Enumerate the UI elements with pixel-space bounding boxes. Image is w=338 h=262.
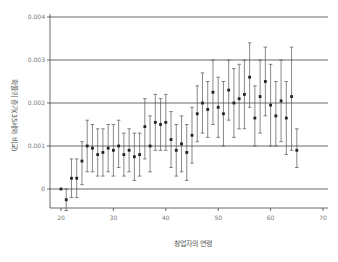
data-point — [91, 147, 94, 150]
data-point — [128, 149, 131, 152]
data-point — [290, 95, 293, 98]
tick-labels: 00.0010.0020.0030.004203040506070 — [28, 13, 327, 221]
data-point — [102, 151, 105, 154]
data-point — [96, 153, 99, 156]
x-tick-label: 70 — [319, 214, 327, 221]
data-point — [280, 99, 283, 102]
data-point — [233, 102, 236, 105]
data-point — [149, 145, 152, 148]
axes — [47, 14, 328, 211]
data-point — [75, 177, 78, 180]
data-point — [122, 153, 125, 156]
data-point — [138, 153, 141, 156]
data-point — [107, 147, 110, 150]
data-point — [154, 121, 157, 124]
y-tick-label: 0.003 — [28, 56, 45, 63]
data-point — [212, 91, 215, 94]
x-axis-title: 창업자의 연령 — [174, 239, 212, 248]
data-point — [201, 102, 204, 105]
data-point — [222, 112, 225, 115]
data-point — [191, 134, 194, 137]
data-point — [285, 117, 288, 120]
data-point — [243, 93, 246, 96]
data-point — [274, 115, 277, 118]
data-point — [175, 149, 178, 152]
data-point — [185, 151, 188, 154]
data-point — [143, 125, 146, 128]
y-tick-label: 0.004 — [28, 13, 45, 20]
data-point — [217, 106, 220, 109]
data-point — [170, 138, 173, 141]
chart: 00.0010.0020.0030.004203040506070 창업자의 연… — [0, 0, 338, 262]
x-tick-label: 50 — [214, 214, 222, 221]
data-point — [295, 149, 298, 152]
data-point — [117, 145, 120, 148]
y-tick-label: 0.002 — [28, 99, 45, 106]
x-tick-label: 30 — [110, 214, 118, 221]
data-point — [180, 142, 183, 145]
data-points — [60, 76, 299, 201]
data-point — [248, 76, 251, 79]
data-point — [264, 80, 267, 83]
data-point — [112, 149, 115, 152]
data-point — [227, 89, 230, 92]
data-point — [206, 108, 209, 111]
y-tick-label: 0.001 — [28, 142, 45, 149]
data-point — [164, 121, 167, 124]
data-point — [159, 123, 162, 126]
y-tick-label: 0 — [41, 185, 45, 192]
data-point — [253, 117, 256, 120]
x-tick-label: 20 — [57, 214, 65, 221]
data-point — [133, 155, 136, 158]
x-tick-label: 40 — [162, 214, 170, 221]
error-bars — [64, 43, 298, 211]
data-point — [70, 177, 73, 180]
data-point — [81, 160, 84, 163]
data-point — [65, 198, 68, 201]
data-point — [259, 95, 262, 98]
data-point — [196, 112, 199, 115]
x-tick-label: 60 — [267, 214, 275, 221]
data-point — [86, 145, 89, 148]
data-point — [269, 104, 272, 107]
y-axis-title: 확률의 증가(35세와 비교) — [10, 79, 19, 152]
data-point — [238, 97, 241, 100]
data-point — [60, 188, 63, 191]
